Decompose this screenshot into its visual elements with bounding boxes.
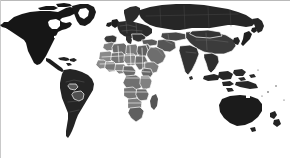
region-north-america <box>0 3 76 65</box>
region-greenland <box>72 4 96 26</box>
world-map-svg <box>0 0 290 158</box>
region-pacific-islands <box>257 69 284 100</box>
region-australia <box>219 94 262 132</box>
region-new-zealand <box>270 111 281 127</box>
region-south-america <box>60 69 94 138</box>
world-map-figure: World Map <box>0 0 290 158</box>
region-russia <box>139 4 264 33</box>
